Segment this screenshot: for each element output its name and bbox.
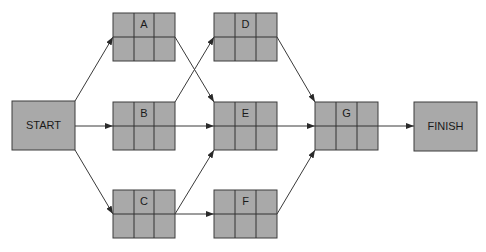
start-node: START [12, 101, 75, 150]
activity-a-label: A [140, 18, 148, 30]
activity-node-f: F [214, 190, 277, 238]
activity-node-g: G [315, 102, 378, 150]
activity-b-label: B [140, 107, 147, 119]
activity-node-e: E [214, 102, 277, 150]
activity-c-label: C [140, 195, 148, 207]
edge-start-to-c [75, 150, 113, 214]
activity-d-label: D [242, 18, 250, 30]
edge-c-to-e [175, 150, 214, 214]
activity-e-label: E [242, 107, 249, 119]
activity-node-b: B [113, 102, 175, 150]
activity-node-d: D [214, 13, 277, 61]
finish-label: FINISH [427, 120, 463, 132]
finish-node: FINISH [414, 102, 477, 151]
activity-node-a: A [113, 13, 175, 61]
edge-f-to-g [277, 150, 315, 214]
activity-node-c: C [113, 190, 175, 238]
edge-start-to-a [75, 37, 113, 101]
network-diagram: START FINISH A B C D [0, 0, 486, 252]
activity-f-label: F [242, 195, 249, 207]
activity-g-label: G [342, 107, 351, 119]
edge-d-to-g [277, 37, 315, 102]
start-label: START [26, 119, 61, 131]
